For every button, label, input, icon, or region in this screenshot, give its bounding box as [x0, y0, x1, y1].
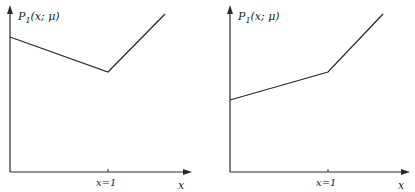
x-axis-arrow-icon: [401, 169, 410, 175]
x-axis-label: x: [178, 179, 185, 192]
x-tick-label: x=1: [96, 177, 116, 188]
left-chart: P1(x; μ) x=1 x: [0, 0, 205, 192]
x-tick-label: x=1: [316, 177, 336, 188]
y-axis-arrow-icon: [7, 5, 13, 14]
x-axis-arrow-icon: [183, 169, 192, 175]
x-axis: [230, 169, 410, 175]
y-axis: [7, 5, 13, 172]
right-chart: P1(x; μ) x=1 x: [210, 0, 415, 192]
x-axis-label: x: [398, 179, 405, 192]
y-axis-label: P1(x; μ): [237, 10, 280, 25]
y-axis-arrow-icon: [227, 5, 233, 14]
y-axis: [227, 5, 233, 172]
curve: [230, 14, 383, 100]
x-axis: [10, 169, 192, 175]
y-axis-label: P1(x; μ): [17, 10, 60, 25]
